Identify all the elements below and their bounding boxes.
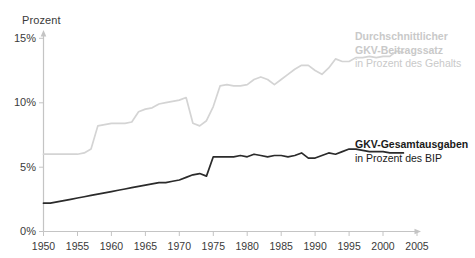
y-tick-label-0: 0% [2,225,36,237]
x-tick-label-1975: 1975 [195,240,231,252]
x-tick-label-1950: 1950 [26,240,62,252]
x-axis-ticks [44,232,418,237]
chart-container: Prozent 15% 10% 5% 0% 1950 1955 1960 196… [0,0,475,258]
legend-beitragssatz-line3: in Prozent des Gehalts [355,57,461,71]
legend-beitragssatz-line2: GKV-Beitragssatz [355,44,461,58]
x-tick-label-2005: 2005 [399,240,435,252]
x-tick-label-2000: 2000 [365,240,401,252]
x-tick-label-1980: 1980 [229,240,265,252]
legend-beitragssatz-line1: Durchschnittlicher [355,30,461,44]
x-tick-label-1990: 1990 [297,240,333,252]
x-tick-label-1970: 1970 [161,240,197,252]
series-line-beitragssatz [44,51,404,154]
legend-gesamtausgaben: GKV-Gesamtausgaben in Prozent des BIP [355,138,468,165]
x-tick-label-1960: 1960 [93,240,129,252]
y-tick-label-15: 15% [2,32,36,44]
x-tick-label-1955: 1955 [60,240,96,252]
y-axis-ticks [39,38,44,231]
y-axis-arrow [41,30,47,37]
x-tick-label-1965: 1965 [127,240,163,252]
legend-gesamtausgaben-line2: in Prozent des BIP [355,152,468,166]
y-tick-label-5: 5% [2,161,36,173]
legend-gesamtausgaben-line1: GKV-Gesamtausgaben [355,138,468,152]
x-tick-label-1995: 1995 [331,240,367,252]
y-tick-label-10: 10% [2,96,36,108]
x-axis-arrow [415,229,422,235]
y-axis-unit-label: Prozent [22,14,61,26]
legend-beitragssatz: Durchschnittlicher GKV-Beitragssatz in P… [355,30,461,71]
series-line-gesamtausgaben [44,149,404,203]
x-tick-label-1985: 1985 [263,240,299,252]
